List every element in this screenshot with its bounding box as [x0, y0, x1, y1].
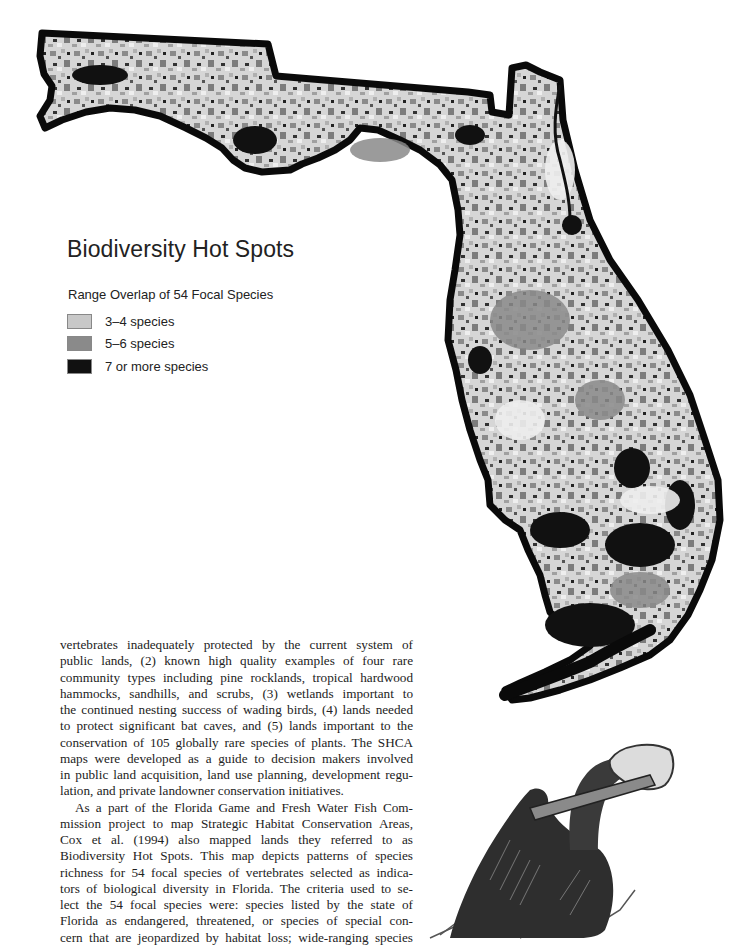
body-line: the continued nesting success of wading …	[60, 702, 413, 718]
body-line: in public land acquisition, land use pla…	[60, 767, 413, 783]
legend-item-5-6: 5–6 species	[67, 333, 208, 356]
legend-swatch-medium	[67, 336, 92, 351]
pelican-illustration	[420, 730, 720, 940]
body-line: to protect significant bat caves, and (5…	[60, 718, 413, 734]
body-line: maps were developed as a guide to decisi…	[60, 751, 413, 767]
body-line: Florida as endangered, threatened, or sp…	[60, 913, 413, 929]
body-line: As a part of the Florida Game and Fresh …	[60, 800, 413, 816]
body-line: richness for 54 focal species of vertebr…	[60, 865, 413, 881]
legend-item-3-4: 3–4 species	[67, 310, 208, 333]
body-line: community types including pine rocklands…	[60, 670, 413, 686]
map-subtitle: Range Overlap of 54 Focal Species	[68, 287, 273, 302]
body-line: lect the 54 focal species were: species …	[60, 897, 413, 913]
body-line: mission project to map Strategic Habitat…	[60, 816, 413, 832]
body-line: public lands, (2) known high quality exa…	[60, 653, 413, 669]
legend-swatch-dark	[67, 359, 92, 374]
map-title: Biodiversity Hot Spots	[67, 236, 294, 263]
legend-label: 7 or more species	[105, 359, 208, 374]
body-line: conservation of 105 globally rare specie…	[60, 735, 413, 751]
body-line: Biodiversity Hot Spots. This map depicts…	[60, 848, 413, 864]
body-line: cern that are jeopardized by habitat los…	[60, 930, 413, 946]
body-line: tors of biological diversity in Florida.…	[60, 881, 413, 897]
body-line: hammocks, sandhills, and scrubs, (3) wet…	[60, 686, 413, 702]
legend-label: 5–6 species	[105, 336, 174, 351]
body-line: Cox et al. (1994) also mapped lands they…	[60, 832, 413, 848]
body-line: lation, and private landowner conservati…	[60, 783, 413, 799]
body-line: vertebrates inadequately protected by th…	[60, 637, 413, 653]
legend-label: 3–4 species	[105, 314, 174, 329]
body-text: vertebrates inadequately protected by th…	[60, 637, 413, 946]
legend-swatch-light	[67, 314, 92, 329]
map-legend: 3–4 species 5–6 species 7 or more specie…	[67, 310, 208, 378]
legend-item-7-plus: 7 or more species	[67, 355, 208, 378]
